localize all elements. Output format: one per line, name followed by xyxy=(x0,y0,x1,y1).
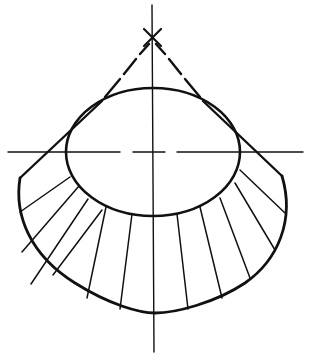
vertical-centerline xyxy=(152,5,154,352)
cone-drawing xyxy=(0,0,310,362)
cone-diagram-svg xyxy=(0,0,310,362)
